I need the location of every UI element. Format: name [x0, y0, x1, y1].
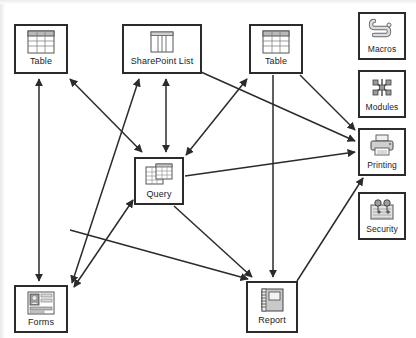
query-icon — [144, 162, 174, 188]
sharepoint-list-icon — [145, 29, 179, 55]
printer-icon — [367, 133, 397, 159]
edge-query-report — [174, 206, 252, 277]
node-label: Macros — [368, 44, 396, 55]
node-printing[interactable]: Printing — [358, 128, 406, 176]
node-table-left[interactable]: Table — [14, 24, 68, 74]
report-icon — [257, 286, 287, 314]
edge-query-forms — [74, 200, 133, 287]
node-security[interactable]: Security — [358, 192, 406, 240]
node-modules[interactable]: Modules — [358, 70, 406, 118]
edge-table-right-printing — [300, 75, 355, 130]
edge-query-table-left — [70, 79, 142, 152]
security-keys-icon — [367, 197, 397, 223]
edge-query-printing — [185, 152, 355, 176]
table-icon — [261, 29, 291, 55]
edge-forms-sharepoint-list — [72, 79, 139, 283]
node-label: Table — [265, 56, 287, 67]
macros-scroll-icon — [367, 17, 397, 43]
node-forms[interactable]: Forms — [14, 285, 68, 333]
node-label: Query — [146, 189, 171, 200]
node-query[interactable]: Query — [134, 157, 184, 205]
edge-query-table-right — [186, 79, 247, 155]
forms-icon — [26, 290, 56, 316]
modules-icon — [367, 75, 397, 101]
node-label: SharePoint List — [131, 56, 194, 67]
node-macros[interactable]: Macros — [358, 12, 406, 60]
node-report[interactable]: Report — [246, 281, 298, 333]
edge-report-printing — [297, 178, 363, 281]
node-sharepoint-list[interactable]: SharePoint List — [122, 24, 202, 74]
node-table-right[interactable]: Table — [249, 24, 303, 74]
node-label: Printing — [367, 160, 397, 171]
node-label: Report — [258, 315, 286, 326]
node-label: Table — [30, 56, 52, 67]
node-label: Security — [366, 224, 398, 235]
diagram-canvas: Table SharePoint List Table — [0, 0, 416, 338]
node-label: Forms — [28, 317, 54, 328]
table-icon — [26, 29, 56, 55]
node-label: Modules — [366, 102, 399, 113]
